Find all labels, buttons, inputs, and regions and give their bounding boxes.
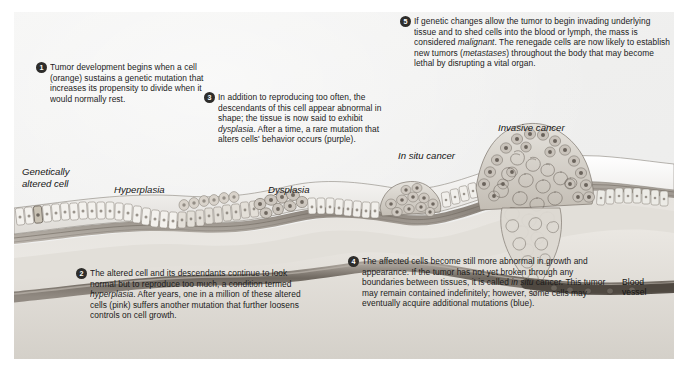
label-invasive-cancer: Invasive cancer [498,122,565,134]
label-dysplasia: Dysplasia [268,184,310,196]
callout-step-5: 5 If genetic changes allow the tumor to … [400,16,672,69]
in-situ-cancer-mass [380,181,441,216]
callout-text-4: The affected cells become still more abn… [362,256,616,309]
callout-text-5: If genetic changes allow the tumor to be… [414,16,672,69]
step-badge-4: 4 [348,256,359,267]
callout-text-1: Tumor development begins when a cell (or… [50,62,212,104]
callout-step-3: 3 In addition to reproducing too often, … [204,92,384,145]
step-badge-3: 3 [204,92,215,103]
label-hyperplasia: Hyperplasia [114,184,165,196]
label-genetically-altered-cell: Genetically altered cell [22,166,69,189]
genetically-altered-cell [33,206,42,224]
cancer-progression-figure: 1 Tumor development begins when a cell (… [0,0,688,370]
callout-step-4: 4 The affected cells become still more a… [348,256,616,309]
callout-step-2: 2 The altered cell and its descendants c… [76,268,306,321]
label-in-situ-cancer: In situ cancer [398,150,455,162]
callout-text-3: In addition to reproducing too often, th… [218,92,384,145]
step-badge-1: 1 [36,62,47,73]
callout-step-1: 1 Tumor development begins when a cell (… [36,62,212,104]
callout-text-2: The altered cell and its descendants con… [90,268,306,321]
label-blood-vessel: Blood vessel [622,277,646,298]
step-badge-2: 2 [76,268,87,279]
step-badge-5: 5 [400,16,411,27]
